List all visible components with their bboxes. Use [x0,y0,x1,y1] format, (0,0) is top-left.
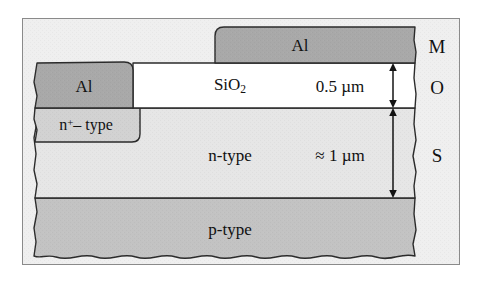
layer-gate-metal [215,27,416,63]
stack-label-semiconductor: S [432,146,443,165]
oxide-shape [133,63,416,108]
oxide-label: SiO2 [214,76,246,96]
oxide-label-subscript: 2 [240,83,246,96]
oxide-thickness-label: 0.5 µm [316,78,365,95]
oxide-label-base: SiO [214,75,240,94]
figure-canvas [0,0,482,283]
gate-metal-texture [215,27,415,63]
n-plus-region-label: n+– type [59,117,113,134]
stack-label-metal: M [429,37,446,56]
n-plus-label-base: n [59,116,67,133]
n-epi-label: n-type [208,147,251,164]
mos-cross-section-figure: Al Al SiO2 n+– type n-type p-type 0.5 µm… [0,0,482,283]
gate-metal-label: Al [292,37,309,54]
n-layer-thickness-label: ≈ 1 µm [315,147,364,164]
contact-metal-label: Al [76,78,93,95]
layer-oxide [133,63,416,108]
p-substrate-label: p-type [208,221,251,238]
stack-label-oxide: O [430,78,444,97]
n-plus-label-tail: – type [73,116,113,133]
